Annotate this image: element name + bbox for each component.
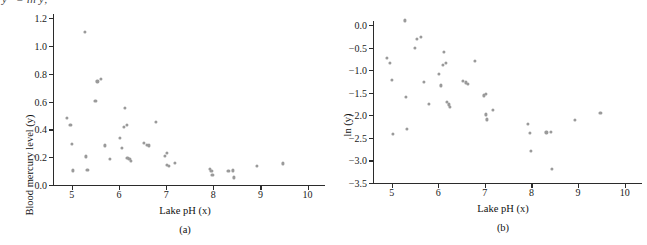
data-point (71, 169, 74, 172)
y-tick (49, 185, 53, 186)
y-tick-label: 0.8 (0, 68, 47, 79)
data-point (413, 46, 416, 49)
data-point (124, 106, 127, 109)
y-tick (369, 93, 373, 94)
data-point (443, 50, 446, 53)
data-point (281, 162, 284, 165)
data-point (445, 61, 448, 64)
y-tick (369, 115, 373, 116)
y-axis-title: Blood mercury level (y) (24, 114, 35, 215)
data-point (529, 149, 532, 152)
x-tick-label: 6 (117, 189, 122, 200)
data-point (94, 99, 97, 102)
x-tick-label: 9 (576, 187, 581, 198)
y-axis-line (373, 21, 374, 183)
data-point (96, 80, 99, 83)
data-point (391, 132, 394, 135)
y-tick (369, 70, 373, 71)
data-point (492, 108, 495, 111)
data-point (66, 116, 69, 119)
panel-b: 56789100.0−0.5−1.0−1.5−2.0−2.5−3.0−3.5La… (320, 0, 647, 245)
y-tick (369, 48, 373, 49)
y-tick-label: 1.0 (0, 40, 47, 51)
x-tick-label: 7 (164, 189, 169, 200)
x-tick-label: 7 (482, 187, 487, 198)
y-axis-title: ln (y) (342, 113, 353, 136)
figure-root: y* = ln y; 56789100.00.20.40.60.81.01.2L… (0, 0, 647, 245)
y-tick-label: 0.6 (0, 96, 47, 107)
data-point (154, 120, 157, 123)
data-point (545, 131, 548, 134)
x-tick-label: 8 (529, 187, 534, 198)
y-tick-label: 0.0 (320, 20, 367, 31)
y-tick (49, 102, 53, 103)
y-tick-label: −3.0 (320, 155, 367, 166)
data-point (466, 83, 469, 86)
x-tick-label: 5 (69, 189, 74, 200)
y-tick-label: −3.5 (320, 178, 367, 189)
data-point (573, 118, 576, 121)
panel-caption: (b) (497, 222, 509, 233)
y-tick (369, 183, 373, 184)
y-tick-label: −1.5 (320, 87, 367, 98)
data-point (390, 78, 393, 81)
data-point (69, 124, 72, 127)
data-point (528, 131, 531, 134)
y-tick (369, 138, 373, 139)
x-tick-label: 6 (436, 187, 441, 198)
data-point (389, 61, 392, 64)
data-point (211, 173, 214, 176)
data-point (484, 92, 487, 95)
data-point (427, 102, 430, 105)
y-tick (49, 129, 53, 130)
data-point (129, 159, 132, 162)
data-point (231, 169, 234, 172)
panel-caption: (a) (179, 224, 191, 235)
data-point (167, 165, 170, 168)
data-point (385, 56, 388, 59)
data-point (473, 59, 476, 62)
y-tick-label: 1.2 (0, 13, 47, 24)
data-point (165, 151, 168, 154)
y-tick (49, 18, 53, 19)
y-tick-label: −1.0 (320, 65, 367, 76)
data-point (486, 118, 489, 121)
data-point (118, 136, 121, 139)
data-point (526, 122, 529, 125)
x-tick-label: 5 (389, 187, 394, 198)
data-point (83, 30, 86, 33)
data-point (120, 147, 123, 150)
data-point (550, 167, 553, 170)
data-point (232, 176, 235, 179)
data-point (549, 130, 552, 133)
data-point (108, 158, 111, 161)
x-axis-title: Lake pH (x) (477, 203, 528, 214)
data-point (84, 155, 87, 158)
panel-a: 56789100.00.20.40.60.81.01.2Lake pH (x)B… (0, 0, 330, 245)
x-tick-label: 10 (303, 189, 313, 200)
data-point (599, 111, 602, 114)
data-point (164, 154, 167, 157)
data-point (125, 124, 128, 127)
x-tick-label: 8 (211, 189, 216, 200)
y-tick (49, 157, 53, 158)
data-point (147, 144, 150, 147)
y-tick (369, 25, 373, 26)
data-point (173, 161, 176, 164)
y-tick (49, 74, 53, 75)
x-axis-title: Lake pH (x) (159, 205, 210, 216)
data-point (70, 142, 73, 145)
data-point (404, 96, 407, 99)
x-axis-line (49, 185, 325, 186)
data-point (439, 84, 442, 87)
x-tick-label: 10 (620, 187, 630, 198)
data-point (403, 19, 406, 22)
data-point (415, 37, 418, 40)
data-point (405, 128, 408, 131)
x-axis-line (369, 183, 642, 184)
data-point (256, 165, 259, 168)
data-point (419, 36, 422, 39)
y-tick-label: −0.5 (320, 42, 367, 53)
data-point (448, 106, 451, 109)
data-point (484, 113, 487, 116)
